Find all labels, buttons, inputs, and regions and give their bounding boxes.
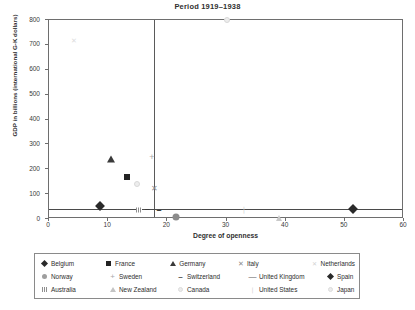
legend-label: Norway [51, 273, 73, 280]
y-axis-tick: 400 [6, 115, 40, 122]
data-point-new-zealand [276, 215, 282, 221]
x-axis-tick-mark [226, 218, 227, 221]
legend-item-new-zealand[interactable]: New Zealand [107, 285, 175, 294]
legend-item-spain[interactable]: Spain [325, 272, 353, 281]
legend-marker-icon [167, 259, 178, 268]
legend-item-netherlands[interactable]: ✕Netherlands [309, 259, 355, 268]
x-axis-tick: 40 [270, 221, 300, 228]
x-axis-tick-mark [107, 218, 108, 221]
x-axis-tick: 60 [388, 221, 415, 228]
y-axis-tick: 500 [6, 90, 40, 97]
legend: BelgiumFranceGermany✕Italy✕NetherlandsNo… [34, 253, 360, 299]
legend-item-united-kingdom[interactable]: —United Kingdom [247, 272, 325, 281]
legend-marker-icon: + [107, 272, 118, 281]
y-axis-tick: 800 [6, 16, 40, 23]
y-axis-tick: 100 [6, 190, 40, 197]
x-axis-tick: 0 [33, 221, 63, 228]
y-axis-tick: 300 [6, 140, 40, 147]
legend-marker-icon [107, 285, 118, 294]
horizontal-reference-line [49, 209, 402, 210]
x-axis-tick: 10 [92, 221, 122, 228]
legend-marker-icon: — [247, 272, 258, 281]
data-point-japan [224, 17, 230, 23]
legend-label: Japan [337, 286, 354, 293]
legend-item-canada[interactable]: Canada [175, 285, 247, 294]
legend-item-australia[interactable]: Australia [39, 285, 107, 294]
data-point-germany [107, 155, 115, 162]
legend-label: United States [259, 286, 297, 293]
legend-marker-icon [175, 285, 186, 294]
legend-item-belgium[interactable]: Belgium [39, 259, 103, 268]
legend-label: Italy [247, 260, 259, 267]
legend-item-switzerland[interactable]: –Switzerland [175, 272, 247, 281]
legend-marker-icon: ✕ [235, 259, 246, 268]
legend-marker-icon: ❘ [247, 285, 258, 294]
data-point-canada [134, 181, 140, 187]
legend-item-germany[interactable]: Germany [167, 259, 235, 268]
legend-marker-icon [39, 272, 50, 281]
legend-row: AustraliaNew ZealandCanada❘United States… [39, 283, 355, 296]
x-axis-tick: 30 [211, 221, 241, 228]
legend-item-norway[interactable]: Norway [39, 272, 107, 281]
x-axis-tick: 20 [151, 221, 181, 228]
legend-label: Netherlands [321, 260, 355, 267]
legend-marker-icon [39, 285, 50, 294]
plot-inner: ✕✕+––❘ [49, 20, 402, 217]
y-axis-tick: 200 [6, 165, 40, 172]
y-axis-tick: 600 [6, 65, 40, 72]
legend-label: France [115, 260, 135, 267]
legend-marker-icon [39, 259, 50, 268]
legend-item-united-states[interactable]: ❘United States [247, 285, 325, 294]
legend-label: Switzerland [187, 273, 220, 280]
legend-row: BelgiumFranceGermany✕Italy✕Netherlands [39, 257, 355, 270]
legend-label: Belgium [51, 260, 74, 267]
data-point-switzerland: – [157, 206, 162, 215]
legend-label: United Kingdom [259, 273, 304, 280]
legend-item-france[interactable]: France [103, 259, 167, 268]
x-axis-tick-mark [166, 218, 167, 221]
legend-marker-icon [325, 285, 336, 294]
legend-label: Spain [337, 273, 353, 280]
data-point-france [124, 174, 130, 180]
x-axis-title: Degree of openness [48, 232, 403, 239]
legend-label: Canada [187, 286, 209, 293]
data-point-netherlands: ✕ [71, 36, 77, 43]
y-axis-tick: 700 [6, 40, 40, 47]
legend-item-italy[interactable]: ✕Italy [235, 259, 309, 268]
legend-row: Norway+Sweden–Switzerland—United Kingdom… [39, 270, 355, 283]
plot-area: ✕✕+––❘ [48, 19, 403, 218]
legend-marker-icon: ✕ [309, 259, 320, 268]
legend-marker-icon: – [175, 272, 186, 281]
legend-label: Germany [179, 260, 205, 267]
chart-page: Period 1919–1938 GDP in billions (intern… [0, 0, 415, 310]
x-axis-tick: 50 [329, 221, 359, 228]
x-axis-tick-mark [344, 218, 345, 221]
vertical-reference-line [154, 20, 155, 217]
legend-marker-icon [325, 272, 336, 281]
data-point-norway [173, 214, 180, 221]
x-axis-tick-mark [48, 218, 49, 221]
legend-item-sweden[interactable]: +Sweden [107, 272, 175, 281]
x-axis-tick-mark [285, 218, 286, 221]
chart-title: Period 1919–1938 [0, 2, 415, 11]
x-axis-tick-mark [403, 218, 404, 221]
legend-item-japan[interactable]: Japan [325, 285, 354, 294]
legend-marker-icon [103, 259, 114, 268]
legend-label: Australia [51, 286, 76, 293]
legend-label: Sweden [119, 273, 142, 280]
legend-label: New Zealand [119, 286, 157, 293]
